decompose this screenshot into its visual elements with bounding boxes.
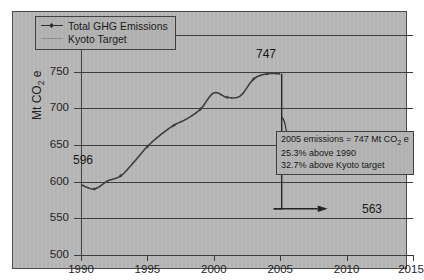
gridline-500 [81,255,413,256]
chart-panel: Mt CO2 e 800 750 700 650 600 550 500 [12,11,407,269]
y-axis-title-subscript: 2 [36,81,46,86]
callout-line-2: 25.3% above 1990 [281,148,409,160]
x-tick-2010 [347,255,348,261]
y-tick-650 [74,145,81,146]
y-tick-600 [74,182,81,183]
y-tick-750 [74,72,81,73]
total-ghg-emissions-markers [93,72,269,191]
legend-label-total-ghg-emissions: Total GHG Emissions [68,20,168,32]
x-tick-1990 [81,255,82,261]
y-tick-label-700: 700 [33,102,69,113]
line-plain-marker-icon [41,34,63,44]
callout-line-3: 32.7% above Kyoto target [281,160,409,172]
total-ghg-emissions-line [81,73,280,189]
callout-line-1: 2005 emissions = 747 Mt CO2 e [281,134,409,148]
callout-line-1-pre: 2005 emissions = 747 Mt CO [281,134,397,144]
chart-legend: Total GHG Emissions Kyoto Target [35,16,176,50]
x-tick-label-2015: 2015 [398,263,424,275]
callout-line-1-post: e [401,134,409,144]
x-tick-label-2000: 2000 [201,263,227,275]
x-tick-label-2005: 2005 [267,263,293,275]
peak-value-label: 747 [256,47,276,61]
line-diamond-marker-icon [41,21,63,31]
x-tick-label-1990: 1990 [68,263,94,275]
y-tick-550 [74,218,81,219]
legend-item-total-ghg-emissions[interactable]: Total GHG Emissions [41,20,168,32]
y-tick-700 [74,108,81,109]
x-tick-2005 [280,255,281,261]
y-tick-label-500: 500 [33,249,69,260]
x-tick-2015 [413,255,414,261]
y-tick-500 [74,255,81,256]
callout-box: 2005 emissions = 747 Mt CO2 e 25.3% abov… [276,131,414,175]
legend-item-kyoto-target[interactable]: Kyoto Target [41,33,168,45]
y-tick-label-650: 650 [33,139,69,150]
legend-label-kyoto-target: Kyoto Target [68,33,127,45]
y-tick-label-750: 750 [33,66,69,77]
start-value-label: 596 [73,153,93,167]
x-tick-label-1995: 1995 [135,263,161,275]
x-tick-1995 [147,255,148,261]
y-tick-label-600: 600 [33,176,69,187]
x-tick-label-2010: 2010 [334,263,360,275]
target-value-label: 563 [362,202,382,216]
y-tick-label-550: 550 [33,212,69,223]
x-tick-2000 [214,255,215,261]
